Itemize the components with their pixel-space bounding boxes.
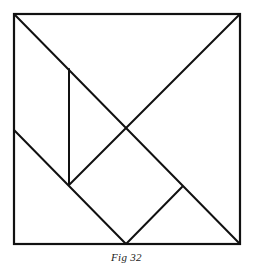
- tangram-figure: [0, 0, 253, 268]
- anti-diagonal-upper-line: [69, 14, 240, 185]
- tangram-segments: [14, 14, 240, 244]
- lower-right-short-line: [126, 187, 182, 244]
- figure-caption: Fig 32: [0, 251, 253, 263]
